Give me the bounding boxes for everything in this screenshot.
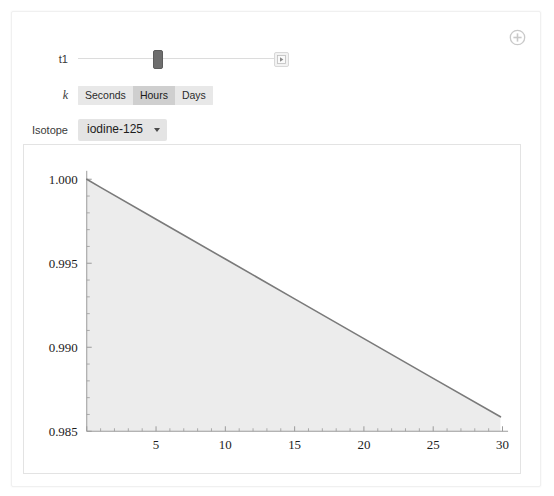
triangle-down-icon (154, 128, 160, 132)
slider-row: t1 (12, 48, 357, 70)
setter-option-days[interactable]: Days (175, 86, 213, 105)
slider-thumb[interactable] (153, 50, 163, 69)
slider-label: t1 (12, 54, 68, 65)
controls-area: t1 k Seconds Hours Days (12, 12, 540, 143)
svg-text:15: 15 (288, 437, 301, 452)
isotope-row: Isotope iodine-125 (12, 119, 167, 141)
svg-text:20: 20 (357, 437, 370, 452)
svg-text:0.995: 0.995 (49, 256, 78, 271)
setter-bar-label: k (12, 90, 68, 101)
isotope-select[interactable]: iodine-125 (78, 119, 167, 141)
setter-bar-row: k Seconds Hours Days (12, 85, 213, 105)
isotope-label: Isotope (12, 125, 68, 136)
svg-text:10: 10 (219, 437, 232, 452)
play-step-icon[interactable] (274, 52, 289, 67)
svg-text:1.000: 1.000 (49, 172, 78, 187)
svg-text:5: 5 (153, 437, 159, 452)
time-unit-setter-bar[interactable]: Seconds Hours Days (78, 86, 213, 105)
svg-text:0.990: 0.990 (49, 340, 78, 355)
manipulate-panel: t1 k Seconds Hours Days (11, 11, 541, 487)
plot-svg: 510152025301.0000.9950.9900.985 (24, 145, 520, 473)
decay-plot: 510152025301.0000.9950.9900.985 (24, 145, 520, 473)
svg-text:25: 25 (427, 437, 440, 452)
t1-slider[interactable] (78, 48, 278, 70)
setter-option-seconds[interactable]: Seconds (78, 86, 133, 105)
isotope-selected-value: iodine-125 (87, 123, 143, 136)
setter-option-hours[interactable]: Hours (133, 86, 175, 105)
svg-text:0.985: 0.985 (49, 424, 78, 439)
manipulate-app: t1 k Seconds Hours Days (0, 0, 554, 496)
svg-text:30: 30 (496, 437, 509, 452)
slider-track[interactable] (78, 58, 278, 59)
plot-frame: 510152025301.0000.9950.9900.985 (23, 144, 521, 474)
